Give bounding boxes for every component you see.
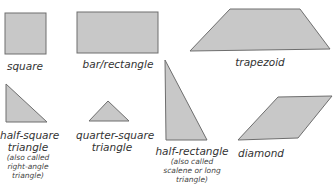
half-rectangle-note-2: scalene or long — [150, 166, 234, 175]
quarter-square-triangle-label-2: triangle — [76, 141, 148, 153]
quarter-square-triangle-shape — [89, 101, 129, 121]
diamond-shape — [238, 96, 332, 140]
bar-rectangle-shape — [77, 12, 158, 53]
diamond-label: diamond — [236, 147, 286, 159]
half-rectangle-label: half-rectangle — [150, 145, 234, 157]
square-shape — [5, 13, 46, 54]
trapezoid-shape — [190, 9, 330, 51]
half-square-triangle-note-2: right-angle — [0, 162, 56, 171]
quarter-square-triangle-caption: quarter-square triangle — [76, 129, 148, 153]
half-square-triangle-note-3: triangle) — [0, 171, 56, 180]
quarter-square-triangle-label-1: quarter-square — [76, 129, 148, 141]
half-square-triangle-note-1: (also called — [0, 153, 56, 162]
half-rectangle-shape — [165, 60, 207, 140]
bar-rectangle-label: bar/rectangle — [78, 58, 158, 70]
half-square-triangle-caption: half-square triangle (also called right-… — [0, 129, 56, 180]
trapezoid-label: trapezoid — [225, 56, 295, 68]
square-label: square — [2, 60, 48, 72]
half-square-triangle-shape — [6, 84, 47, 122]
half-rectangle-note-1: (also called — [150, 157, 234, 166]
half-rectangle-note-3: triangle) — [150, 175, 234, 184]
half-rectangle-caption: half-rectangle (also called scalene or l… — [150, 145, 234, 184]
half-square-triangle-label-1: half-square — [0, 129, 56, 141]
half-square-triangle-label-2: triangle — [0, 141, 56, 153]
